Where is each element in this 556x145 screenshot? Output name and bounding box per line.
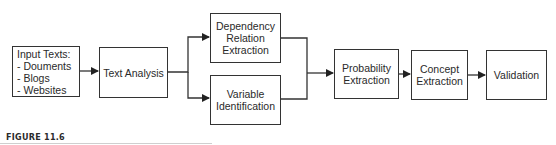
text-analysis-label: Text Analysis — [103, 67, 164, 79]
node-probability-extraction: Probability Extraction — [334, 49, 399, 99]
figure-caption: FIGURE 11.6 — [6, 131, 65, 142]
node-input-texts: Input Texts: - Douments - Blogs - Websit… — [12, 46, 80, 97]
node-concept-extraction: Concept Extraction — [411, 50, 468, 100]
input-item-websites: - Websites — [17, 84, 71, 96]
input-item-documents: - Douments — [17, 60, 71, 72]
node-text-analysis: Text Analysis — [99, 47, 168, 98]
node-dependency-relation-extraction: Dependency Relation Extraction — [210, 13, 281, 63]
line-dependency-to-merge — [280, 38, 307, 99]
validation-label: Validation — [494, 69, 539, 81]
input-texts-label: Input Texts: - Douments - Blogs - Websit… — [17, 48, 71, 96]
dependency-label: Dependency Relation Extraction — [216, 20, 275, 56]
node-validation: Validation — [486, 50, 547, 100]
variable-label: Variable Identification — [216, 88, 275, 112]
input-item-blogs: - Blogs — [17, 72, 71, 84]
caption-divider — [0, 143, 212, 144]
input-texts-title: Input Texts: — [17, 48, 71, 60]
concept-label: Concept Extraction — [416, 63, 463, 87]
arrow-text-analysis-to-dependency — [167, 37, 209, 72]
arrow-text-analysis-to-variable — [188, 72, 209, 98]
node-variable-identification: Variable Identification — [210, 75, 281, 125]
probability-label: Probability Extraction — [342, 62, 391, 86]
